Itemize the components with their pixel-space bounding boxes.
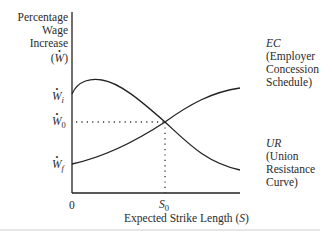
ec-curve-label: EC (Employer Concession Schedule) bbox=[266, 37, 319, 89]
origin-label: 0 bbox=[69, 199, 75, 212]
bottom-divider bbox=[0, 229, 320, 231]
y-axis-title: Percentage Wage Increase (W) bbox=[18, 11, 68, 65]
w-0-label: W0 bbox=[52, 115, 66, 132]
w-i-label: Wi bbox=[52, 90, 64, 107]
ec-curve bbox=[72, 88, 240, 164]
ur-desc-line: Curve) bbox=[266, 176, 315, 189]
ur-desc-line: (Union bbox=[266, 150, 315, 163]
ec-desc-line: (Employer bbox=[266, 50, 319, 63]
ec-desc-line: Concession bbox=[266, 63, 319, 76]
w-f-label: Wf bbox=[52, 158, 64, 175]
ec-abbr: EC bbox=[266, 37, 319, 50]
x-axis-title: Expected Strike Length (S) bbox=[124, 212, 249, 225]
ur-abbr: UR bbox=[266, 137, 315, 150]
ur-curve-label: UR (Union Resistance Curve) bbox=[266, 137, 315, 189]
y-axis-symbol: (W) bbox=[18, 52, 68, 65]
y-axis-title-line: Wage bbox=[18, 24, 68, 37]
y-axis-title-line: Percentage bbox=[18, 11, 68, 24]
ur-desc-line: Resistance bbox=[266, 163, 315, 176]
ec-desc-line: Schedule) bbox=[266, 76, 319, 89]
